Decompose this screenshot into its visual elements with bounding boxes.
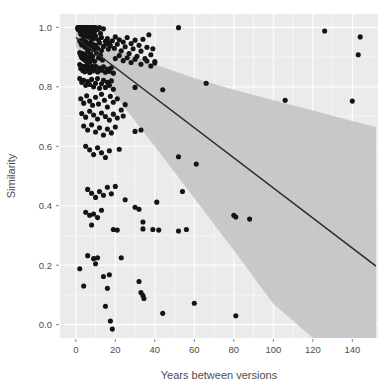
data-point — [233, 313, 238, 318]
data-point — [192, 301, 197, 306]
data-point — [81, 283, 86, 288]
data-point — [110, 327, 115, 332]
x-tick-label: 120 — [305, 344, 321, 355]
data-point — [102, 98, 107, 103]
data-point — [89, 122, 94, 127]
data-point — [119, 107, 124, 112]
data-point — [117, 53, 122, 58]
data-point — [93, 95, 98, 100]
data-point — [146, 32, 151, 37]
data-point — [105, 126, 110, 131]
data-point — [176, 154, 181, 159]
x-axis-title: Years between versions — [161, 369, 278, 381]
data-point — [87, 147, 92, 152]
data-point — [97, 189, 102, 194]
data-point — [358, 34, 363, 39]
data-point — [176, 228, 181, 233]
data-point — [108, 94, 113, 99]
data-point — [141, 296, 146, 301]
data-point — [136, 43, 141, 48]
data-point — [84, 93, 89, 98]
data-point — [107, 118, 112, 123]
x-tick-label: 140 — [344, 344, 360, 355]
data-point — [204, 81, 209, 86]
y-tick-label: 0.4 — [39, 200, 52, 211]
data-point — [107, 83, 112, 88]
data-point — [138, 62, 143, 67]
data-point — [123, 102, 128, 107]
data-point — [103, 155, 108, 160]
data-point — [83, 115, 88, 120]
data-point — [194, 162, 199, 167]
scatter-plot-figure: 020406080100120140 0.00.20.40.60.81.0 Ye… — [0, 0, 384, 387]
data-point — [117, 147, 122, 152]
data-point — [97, 125, 102, 130]
data-point — [119, 48, 124, 53]
data-point — [89, 191, 94, 196]
data-point — [97, 86, 102, 91]
x-tick-label: 60 — [189, 344, 200, 355]
data-point — [125, 55, 130, 60]
data-point — [87, 99, 92, 104]
data-point — [133, 57, 138, 62]
data-point — [79, 111, 84, 116]
x-tick-label: 40 — [150, 344, 161, 355]
data-point — [111, 87, 116, 92]
data-point — [111, 100, 116, 105]
data-point — [133, 38, 138, 43]
data-point — [85, 187, 90, 192]
data-point — [91, 113, 96, 118]
data-point — [90, 103, 95, 108]
data-point — [123, 197, 128, 202]
plot-panel — [60, 14, 378, 338]
data-point — [91, 152, 96, 157]
data-point — [152, 59, 157, 64]
data-point — [144, 58, 149, 63]
data-point — [115, 96, 120, 101]
data-point — [108, 319, 113, 324]
data-point — [77, 266, 82, 271]
data-point — [107, 272, 112, 277]
y-axis-title: Similarity — [5, 153, 17, 198]
data-point — [92, 59, 97, 64]
data-point — [148, 52, 153, 57]
data-point — [136, 207, 141, 212]
data-point — [356, 52, 361, 57]
data-point — [109, 78, 114, 83]
data-point — [111, 71, 116, 76]
data-point — [140, 37, 145, 42]
y-tick-label: 0.6 — [39, 141, 52, 152]
data-point — [156, 228, 161, 233]
data-point — [109, 191, 114, 196]
data-point — [101, 132, 106, 137]
data-point — [119, 255, 124, 260]
data-point — [93, 261, 98, 266]
data-point — [233, 214, 238, 219]
data-point — [95, 116, 100, 121]
data-point — [93, 129, 98, 134]
data-point — [136, 279, 141, 284]
data-point — [95, 255, 100, 260]
y-tick-label: 1.0 — [39, 22, 52, 33]
data-point — [107, 148, 112, 153]
y-tick-label: 0.2 — [39, 260, 52, 271]
data-point — [247, 217, 252, 222]
x-tick-label: 20 — [110, 344, 121, 355]
data-point — [105, 104, 110, 109]
data-point — [115, 42, 120, 47]
data-point — [113, 124, 118, 129]
data-point — [99, 208, 104, 213]
data-point — [78, 96, 83, 101]
data-point — [322, 28, 327, 33]
data-point — [93, 195, 98, 200]
data-point — [154, 200, 159, 205]
data-point — [148, 63, 153, 68]
data-point — [113, 184, 118, 189]
data-point — [125, 35, 130, 40]
data-point — [121, 113, 126, 118]
data-point — [144, 45, 149, 50]
data-point — [99, 35, 104, 40]
data-point — [133, 85, 138, 90]
data-point — [160, 311, 165, 316]
data-point — [89, 77, 94, 82]
